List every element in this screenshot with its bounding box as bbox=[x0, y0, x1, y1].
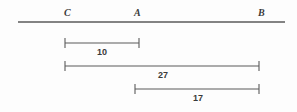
measure-label-27: 27 bbox=[158, 71, 168, 80]
point-label-c: C bbox=[64, 8, 71, 18]
point-label-b: B bbox=[258, 8, 265, 18]
geometry-diagram: C A B 10 27 17 bbox=[0, 0, 297, 112]
measure-label-10: 10 bbox=[97, 48, 107, 57]
diagram-canvas bbox=[0, 0, 297, 112]
measure-label-17: 17 bbox=[193, 94, 203, 103]
point-label-a: A bbox=[134, 8, 141, 18]
